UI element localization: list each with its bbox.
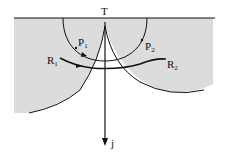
p2-point-icon	[141, 39, 143, 41]
p1-point-icon	[75, 47, 77, 49]
diagram-canvas: T P1 P2 R1 R2 j	[0, 0, 226, 157]
shaded-medium	[14, 18, 213, 113]
diagram: T P1 P2 R1 R2 j	[0, 0, 226, 157]
j-arrowhead-icon	[102, 138, 108, 146]
label-j: j	[110, 137, 114, 149]
label-t: T	[101, 5, 108, 17]
